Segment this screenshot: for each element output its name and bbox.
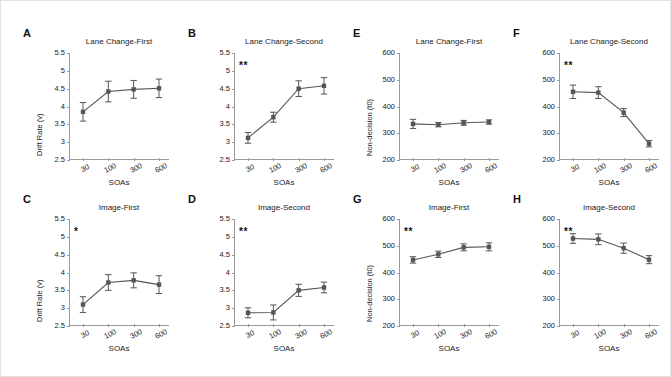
panel-f: FLane Change-Second200300400500600301003… [513, 27, 671, 187]
data-series-a [23, 27, 183, 187]
data-series-h [513, 193, 671, 353]
data-series-d [188, 193, 348, 353]
figure-canvas: ALane Change-First2.533.544.555.53010030… [0, 0, 671, 377]
panel-b: BLane Change-Second2.533.544.555.5301003… [188, 27, 348, 187]
data-series-f [513, 27, 671, 187]
panel-d: DImage-Second2.533.544.555.530100300600S… [188, 193, 348, 353]
panel-g: GImage-First20030040050060030100300600SO… [353, 193, 513, 353]
data-series-c [23, 193, 183, 353]
panel-c: CImage-First2.533.544.555.530100300600SO… [23, 193, 183, 353]
data-series-g [353, 193, 513, 353]
panel-a: ALane Change-First2.533.544.555.53010030… [23, 27, 183, 187]
panel-h: HImage-Second20030040050060030100300600S… [513, 193, 671, 353]
panel-e: ELane Change-First2003004005006003010030… [353, 27, 513, 187]
data-series-b [188, 27, 348, 187]
data-series-e [353, 27, 513, 187]
